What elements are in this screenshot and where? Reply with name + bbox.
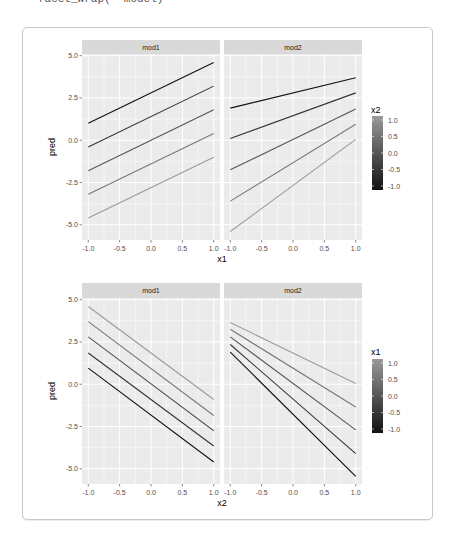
x-tick-label: 0.5 [177, 489, 187, 496]
facet-strip-label: mod1 [142, 287, 160, 294]
legend-label: 0.5 [388, 133, 398, 140]
legend-label: 0.0 [388, 393, 398, 400]
legend-label: -1.0 [388, 426, 400, 433]
legend-label: -0.5 [388, 409, 400, 416]
x-tick-label: -1.0 [224, 489, 236, 496]
legend-title: x2 [371, 105, 381, 115]
y-tick-label: 5.0 [68, 52, 78, 59]
facet-strip-label: mod2 [284, 287, 302, 294]
panel-mod2: mod2-1.0-0.50.00.51.0 [224, 40, 362, 252]
panel-mod1: mod1-1.0-0.50.00.51.05.02.50.0-2.5-5.0 [66, 283, 220, 496]
legend-title: x1 [371, 347, 381, 357]
chart-top-x1: mod1-1.0-0.50.00.51.05.02.50.0-2.5-5.0mo… [47, 40, 400, 264]
legend-colorbar: x11.00.50.0-0.5-1.0 [371, 347, 400, 433]
x-tick-label: 0.0 [288, 245, 298, 252]
x-axis-title: x1 [217, 254, 227, 264]
x-tick-label: 0.5 [319, 489, 329, 496]
y-axis-title: pred [47, 382, 57, 400]
x-tick-label: -1.0 [82, 245, 94, 252]
x-tick-label: -0.5 [256, 245, 268, 252]
y-tick-label: 2.5 [68, 94, 78, 101]
facet-strip-label: mod1 [142, 44, 160, 51]
legend-label: -0.5 [388, 166, 400, 173]
x-tick-label: 0.0 [288, 489, 298, 496]
y-tick-label: 0.0 [68, 137, 78, 144]
panel-mod1: mod1-1.0-0.50.00.51.05.02.50.0-2.5-5.0 [66, 40, 220, 252]
y-tick-label: 0.0 [68, 381, 78, 388]
y-axis-title: pred [47, 138, 57, 156]
x-tick-label: 1.0 [351, 245, 361, 252]
x-tick-label: -0.5 [114, 245, 126, 252]
x-tick-label: 1.0 [351, 489, 361, 496]
faceted-line-charts: mod1-1.0-0.50.00.51.05.02.50.0-2.5-5.0mo… [0, 0, 454, 540]
y-tick-label: 2.5 [68, 338, 78, 345]
facet-strip-label: mod2 [284, 44, 302, 51]
panel-mod2: mod2-1.0-0.50.00.51.0 [224, 283, 362, 496]
legend-label: 1.0 [388, 360, 398, 367]
legend-label: -1.0 [388, 183, 400, 190]
x-tick-label: 0.0 [146, 489, 156, 496]
y-tick-label: -2.5 [66, 179, 78, 186]
y-tick-label: 5.0 [68, 296, 78, 303]
x-axis-title: x2 [217, 498, 227, 508]
x-tick-label: -1.0 [82, 489, 94, 496]
y-tick-label: -2.5 [66, 423, 78, 430]
legend-label: 0.0 [388, 150, 398, 157]
legend-colorbar: x21.00.50.0-0.5-1.0 [371, 105, 400, 190]
x-tick-label: 0.5 [177, 245, 187, 252]
x-tick-label: -0.5 [114, 489, 126, 496]
x-tick-label: -0.5 [256, 489, 268, 496]
legend-label: 0.5 [388, 376, 398, 383]
chart-bottom-x2: mod1-1.0-0.50.00.51.05.02.50.0-2.5-5.0mo… [47, 283, 400, 508]
x-tick-label: 1.0 [209, 245, 219, 252]
x-tick-label: 0.0 [146, 245, 156, 252]
legend-label: 1.0 [388, 117, 398, 124]
y-tick-label: -5.0 [66, 465, 78, 472]
x-tick-label: -1.0 [224, 245, 236, 252]
x-tick-label: 0.5 [319, 245, 329, 252]
y-tick-label: -5.0 [66, 221, 78, 228]
x-tick-label: 1.0 [209, 489, 219, 496]
